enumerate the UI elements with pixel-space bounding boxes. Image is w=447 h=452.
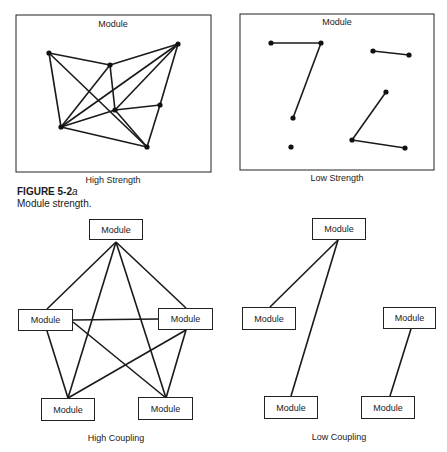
figure-caption: Module strength. [17, 198, 92, 209]
low-strength-node [383, 89, 388, 94]
high-coupling-module-box: Module [158, 308, 213, 330]
high-coupling-connection [73, 319, 158, 320]
high-strength-node [46, 50, 51, 55]
high-strength-edges [49, 44, 178, 147]
high-coupling-module-box: Module [138, 397, 193, 420]
figure-number: FIGURE 5-2 [17, 186, 72, 197]
high-strength-node [58, 124, 63, 129]
high-strength-edge [115, 105, 160, 110]
high-strength-node [175, 41, 180, 46]
high-strength-module-title: Module [98, 19, 128, 29]
high-coupling-connection [47, 331, 68, 398]
high-strength-edge [61, 110, 115, 127]
low-coupling-label: Low Coupling [312, 432, 367, 442]
low-coupling-connection [390, 329, 411, 396]
high-coupling-label: High Coupling [88, 433, 145, 443]
high-strength-node [157, 102, 162, 107]
low-strength-label: Low Strength [310, 173, 363, 183]
low-strength-node [370, 48, 375, 53]
low-strength-node [402, 145, 407, 150]
high-coupling-module-box: Module [89, 219, 143, 240]
low-strength-edge [293, 43, 321, 118]
high-coupling-module-box: Module [41, 398, 95, 421]
diagram-canvas [0, 0, 447, 452]
low-strength-node [268, 40, 273, 45]
high-strength-edge [110, 65, 115, 110]
low-coupling-module-box: Module [242, 307, 296, 330]
high-strength-edge [147, 105, 160, 147]
low-strength-node [290, 115, 295, 120]
low-coupling-module-box: Module [361, 396, 415, 419]
high-strength-edge [61, 65, 110, 127]
high-strength-node [112, 107, 117, 112]
high-strength-edge [61, 127, 147, 147]
high-strength-edge [49, 53, 61, 127]
low-strength-edge [352, 92, 386, 140]
low-strength-module-title: Module [322, 17, 352, 27]
figure-suffix: a [72, 186, 78, 197]
low-coupling-module-box: Module [264, 396, 318, 419]
high-coupling-module-box: Module [18, 309, 73, 331]
high-strength-label: High Strength [85, 175, 140, 185]
low-strength-node [318, 40, 323, 45]
low-strength-edge [352, 140, 405, 148]
low-strength-node [288, 144, 293, 149]
low-coupling-module-box: Module [383, 307, 436, 329]
high-strength-edge [49, 53, 110, 65]
low-strength-node [406, 52, 411, 57]
low-strength-nodes [268, 40, 411, 150]
low-coupling-module-box: Module [312, 218, 366, 240]
high-strength-node [107, 62, 112, 67]
figure-title: FIGURE 5-2a [17, 186, 78, 197]
low-strength-edges [271, 43, 409, 148]
low-strength-node [349, 137, 354, 142]
low-strength-edge [373, 51, 409, 55]
high-strength-node [144, 144, 149, 149]
